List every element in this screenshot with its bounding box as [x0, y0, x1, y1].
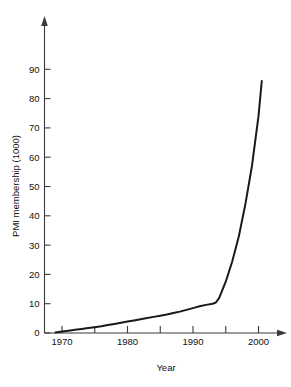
y-tick-label: 30: [29, 240, 40, 251]
y-tick-label: 90: [29, 64, 40, 75]
y-tick-label: 10: [29, 298, 40, 309]
y-axis-arrow-up-icon: [41, 16, 48, 26]
y-tick-label: 70: [29, 122, 40, 133]
x-axis-title: Year: [156, 362, 175, 373]
x-tick-label: 1990: [182, 336, 203, 347]
y-tick-label: 0: [34, 327, 39, 338]
x-axis-arrow-right-icon: [277, 330, 287, 337]
x-tick-label: 2000: [248, 336, 269, 347]
chart-canvas: 0102030405060708090 1970198019902000 Yea…: [0, 0, 291, 387]
y-tick-label: 60: [29, 152, 40, 163]
y-axis-title: PMI membership (1000): [10, 135, 21, 237]
y-axis: [41, 16, 48, 333]
y-tick-label: 40: [29, 210, 40, 221]
x-tick-label: 1970: [51, 336, 72, 347]
chart-figure: 0102030405060708090 1970198019902000 Yea…: [0, 0, 291, 387]
data-series-line: [55, 81, 261, 332]
y-tick-label: 80: [29, 93, 40, 104]
y-tick-label: 20: [29, 269, 40, 280]
y-tick-group: 0102030405060708090: [29, 64, 51, 339]
y-tick-label: 50: [29, 181, 40, 192]
x-tick-label: 1980: [117, 336, 138, 347]
